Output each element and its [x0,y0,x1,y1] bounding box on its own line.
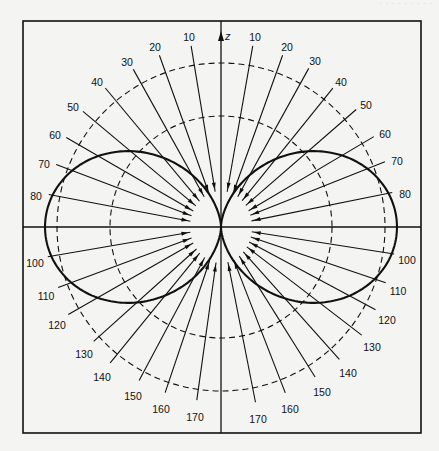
angle-ray [252,232,394,254]
angle-label: 130 [363,341,381,353]
angle-ray [247,247,362,335]
angle-label: 130 [75,348,93,360]
ray-arrow-icon [181,218,188,222]
angle-label: 100 [398,254,416,266]
angle-label: 60 [379,128,391,140]
angle-label: 160 [281,403,299,415]
angle-label: 20 [281,41,293,53]
angle-ray [48,232,191,257]
angle-ray [66,138,193,211]
ray-arrow-icon [228,264,232,271]
angle-label: 120 [378,314,396,326]
angle-ray [94,249,197,341]
angle-ray [110,253,199,363]
angle-label: 150 [124,390,142,402]
angle-label: 10 [249,31,261,43]
angle-label: 170 [249,413,267,425]
angle-ray [249,242,375,310]
angle-label: 110 [390,285,407,297]
angle-label: 150 [313,386,331,398]
angle-ray [159,55,209,194]
radiation-pattern-diagram: 1020304050607080100110120130140150160170… [0,0,439,451]
angle-ray [243,252,339,359]
z-arrow-icon [218,31,224,41]
angle-ray [58,238,191,288]
angle-ray [234,260,286,393]
ray-arrow-icon [254,217,261,221]
angle-ray [197,263,216,401]
angle-ray [251,237,386,283]
ray-arrow-icon [182,211,189,215]
angle-label: 60 [49,129,61,141]
z-axis-label: z [224,30,231,42]
ray-arrow-icon [250,204,257,209]
ray-arrow-icon [253,238,260,242]
angle-ray [239,256,315,377]
angle-label: 50 [360,99,372,111]
angle-label: 30 [309,55,321,67]
angle-label: 50 [67,101,79,113]
angle-label: 160 [152,403,170,415]
ray-arrow-icon [252,210,259,214]
angle-label: 70 [38,158,50,170]
angle-label: 100 [26,257,44,269]
ray-arrow-icon [184,244,191,249]
angle-label: 140 [93,371,111,383]
ray-arrow-icon [184,205,191,210]
angle-ray [242,88,333,201]
angle-ray [105,88,199,201]
angle-label: 70 [391,155,403,167]
angle-ray [133,69,204,196]
angle-label: 140 [339,367,357,379]
angle-label: 20 [149,41,161,53]
angle-ray [191,46,215,192]
ray-arrow-icon [182,239,189,243]
angle-label: 10 [183,31,195,43]
angle-ray [227,46,253,192]
angle-ray [233,55,283,194]
angle-label: 80 [399,188,411,200]
angle-label: 40 [335,76,347,88]
angle-label: 110 [38,290,55,302]
angle-label: 80 [30,190,42,202]
ray-arrow-icon [198,188,203,195]
angle-label: 30 [121,56,133,68]
ray-arrow-icon [251,243,258,248]
ray-arrow-icon [199,259,204,266]
ray-arrow-icon [213,265,217,272]
angle-label: 170 [186,411,204,423]
ray-arrow-icon [240,258,245,265]
angle-ray [83,111,196,206]
angle-label: 40 [91,76,103,88]
angle-label: 120 [48,319,66,331]
angle-ray [228,262,256,402]
ray-arrow-icon [239,188,244,195]
